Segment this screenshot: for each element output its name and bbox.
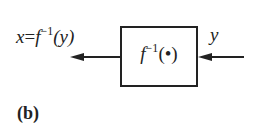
equals-sign: = xyxy=(24,26,35,47)
output-superscript: −1 xyxy=(40,24,53,38)
output-label: x=f−1(y) xyxy=(16,24,74,48)
output-arrow xyxy=(70,53,120,61)
figure-caption: (b) xyxy=(17,103,39,124)
block-argument: (•) xyxy=(158,43,177,64)
block-superscript: −1 xyxy=(146,41,159,55)
input-label: y xyxy=(210,24,218,46)
block-label: f−1(•) xyxy=(120,41,198,65)
input-arrow xyxy=(198,53,244,61)
output-argument: (y) xyxy=(53,26,74,47)
